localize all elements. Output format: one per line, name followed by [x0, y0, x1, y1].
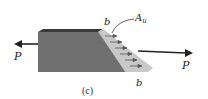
figure-caption: (c) [82, 85, 93, 97]
area-label-main: A [134, 12, 142, 23]
edge-label-bottom: b [136, 77, 142, 88]
area-label-subscript: u [142, 17, 147, 25]
edge-label-top: b [104, 16, 110, 27]
left-force-arrow [14, 40, 38, 48]
force-label-left: P [13, 50, 22, 63]
inclined-section-diagram: P P b b Au (c) [0, 0, 208, 99]
area-label: Au [134, 12, 147, 25]
area-leader-line [112, 19, 134, 33]
block-top-face [38, 29, 103, 32]
right-force-arrow [138, 49, 193, 57]
force-label-right: P [181, 59, 190, 72]
